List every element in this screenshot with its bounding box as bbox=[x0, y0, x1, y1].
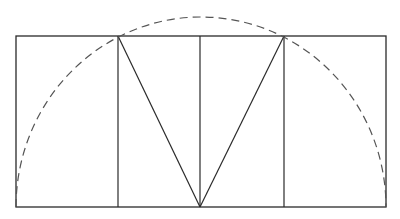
diagonal-right bbox=[200, 36, 284, 207]
geometric-diagram bbox=[0, 0, 400, 219]
outer-rectangle bbox=[16, 36, 386, 207]
dashed-semicircle bbox=[16, 17, 386, 207]
diagonal-left bbox=[118, 36, 200, 207]
